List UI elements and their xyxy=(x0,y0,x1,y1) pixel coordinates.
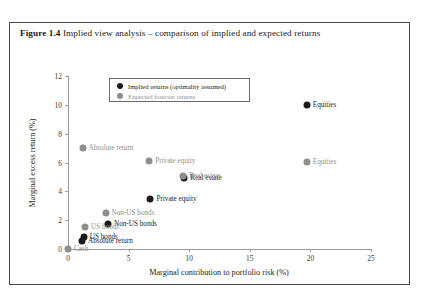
data-point-label: Real estate xyxy=(189,172,220,180)
y-tick-mark xyxy=(65,191,68,192)
x-tick-mark xyxy=(371,249,372,252)
x-tick-mark xyxy=(310,249,311,252)
x-tick-label: 10 xyxy=(185,254,192,263)
data-point-label: Equities xyxy=(313,101,337,109)
y-tick-label: 12 xyxy=(55,72,62,81)
x-tick-mark xyxy=(129,249,130,252)
legend-item-expected: Expected forecast returns xyxy=(117,91,195,101)
y-tick-label: 8 xyxy=(58,129,62,138)
legend-label-expected: Expected forecast returns xyxy=(128,93,195,100)
legend-marker-expected-icon xyxy=(117,93,123,99)
y-tick-label: 4 xyxy=(58,187,62,196)
x-tick-label: 15 xyxy=(246,254,253,263)
y-axis-title: Marginal excess return (%) xyxy=(28,118,37,207)
x-tick-label: 5 xyxy=(127,254,131,263)
data-point-implied xyxy=(147,196,154,203)
y-tick-label: 0 xyxy=(58,245,62,254)
data-point-label: Absolute return xyxy=(88,237,133,245)
data-point-label: Equities xyxy=(313,158,337,166)
y-tick-mark xyxy=(65,220,68,221)
legend-label-implied: Implied returns (optimality assumed) xyxy=(128,83,226,90)
legend-marker-implied-icon xyxy=(117,83,123,89)
y-tick-mark xyxy=(65,105,68,106)
data-point-label: Non-US bonds xyxy=(114,220,157,228)
data-point-label: Cash xyxy=(74,245,88,253)
y-tick-mark xyxy=(65,76,68,77)
data-point-label: US bonds xyxy=(91,223,119,231)
x-axis-title: Marginal contribution to portfolio risk … xyxy=(149,268,289,277)
x-tick-mark xyxy=(189,249,190,252)
y-tick-label: 6 xyxy=(58,158,62,167)
data-point-expected xyxy=(180,173,187,180)
data-point-label: Non-US bonds xyxy=(112,209,155,217)
data-point-label: Private equity xyxy=(156,195,196,203)
data-point-label: Absolute return xyxy=(89,144,134,152)
figure-page: Figure 1.4 Implied view analysis – compa… xyxy=(0,0,421,305)
x-tick-mark xyxy=(250,249,251,252)
data-point-label: Private equity xyxy=(155,157,195,165)
x-tick-label: 20 xyxy=(307,254,314,263)
data-point-implied xyxy=(78,237,85,244)
y-tick-label: 2 xyxy=(58,216,62,225)
legend-item-implied: Implied returns (optimality assumed) xyxy=(117,81,226,91)
y-tick-label: 10 xyxy=(55,100,62,109)
x-axis-line xyxy=(68,249,371,250)
data-point-implied xyxy=(303,101,310,108)
y-tick-mark xyxy=(65,163,68,164)
y-tick-mark xyxy=(65,134,68,135)
y-axis-line xyxy=(68,76,69,250)
x-tick-label: 0 xyxy=(66,254,70,263)
data-point-expected xyxy=(65,246,72,253)
data-point-expected xyxy=(81,223,88,230)
x-tick-label: 25 xyxy=(367,254,374,263)
data-point-expected xyxy=(303,158,310,165)
scatter-plot: Marginal contribution to portfolio risk … xyxy=(0,0,421,305)
data-point-expected xyxy=(79,145,86,152)
data-point-expected xyxy=(146,158,153,165)
data-point-expected xyxy=(102,209,109,216)
chart-legend: Implied returns (optimality assumed) Exp… xyxy=(109,78,250,102)
